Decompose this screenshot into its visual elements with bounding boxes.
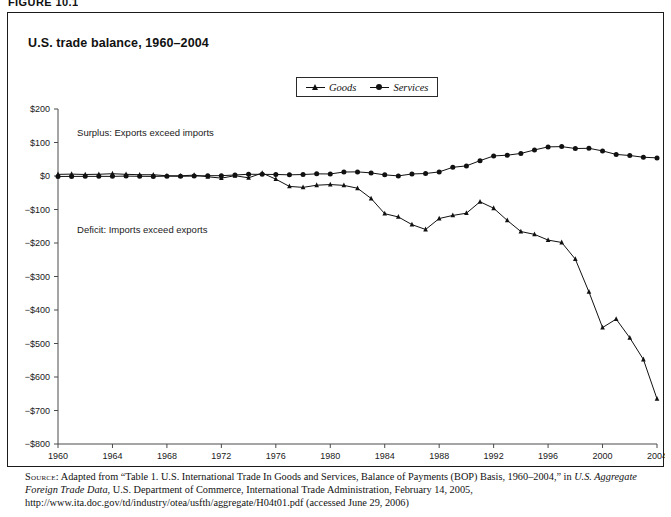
- trade-balance-line-chart: $200$100$0−$100−$200−$300−$400−$500−$600…: [8, 13, 665, 468]
- data-point: [151, 174, 156, 179]
- x-axis-tick-label: 1984: [375, 451, 395, 461]
- x-axis-tick-label: 1976: [266, 451, 286, 461]
- data-point: [124, 174, 129, 179]
- x-axis-tick-label: 2000: [593, 451, 613, 461]
- x-axis-tick-label: 2004: [647, 451, 665, 461]
- data-point: [478, 199, 483, 204]
- y-axis-tick-label: −$400: [25, 305, 50, 315]
- data-point: [273, 172, 278, 177]
- y-axis-tick-label: −$800: [25, 439, 50, 449]
- series-goods: [56, 170, 660, 401]
- data-point: [56, 174, 61, 179]
- data-point: [546, 144, 551, 149]
- figure-label: FIGURE 10.1: [8, 0, 78, 6]
- data-point: [614, 152, 619, 157]
- data-point: [137, 174, 142, 179]
- y-axis-tick-label: −$500: [25, 339, 50, 349]
- data-point: [587, 289, 592, 294]
- data-point: [559, 144, 564, 149]
- data-point: [178, 174, 183, 179]
- data-point: [287, 172, 292, 177]
- data-point: [519, 229, 524, 234]
- data-point: [641, 155, 646, 160]
- chart-frame: U.S. trade balance, 1960–2004 Goods Serv…: [7, 12, 664, 467]
- data-point: [409, 171, 414, 176]
- source-note: Source: Adapted from “Table 1. U.S. Inte…: [25, 470, 667, 510]
- data-point: [164, 174, 169, 179]
- data-point: [219, 173, 224, 178]
- data-point: [341, 170, 346, 175]
- series-services: [56, 144, 660, 179]
- data-point: [614, 316, 619, 321]
- x-axis-tick-label: 1964: [102, 451, 122, 461]
- y-axis-tick-label: −$300: [25, 272, 50, 282]
- data-point: [232, 173, 237, 178]
- data-point: [491, 153, 496, 158]
- plot-area: $200$100$0−$100−$200−$300−$400−$500−$600…: [8, 13, 665, 468]
- data-point: [328, 171, 333, 176]
- data-point: [627, 153, 632, 158]
- data-point: [437, 169, 442, 174]
- annotation-surplus: Surplus: Exports exceed imports: [77, 127, 214, 138]
- source-text-part1: Adapted from “Table 1. U.S. Internationa…: [59, 471, 574, 482]
- data-point: [369, 170, 374, 175]
- x-axis-tick-label: 1980: [320, 451, 340, 461]
- x-axis-tick-label: 1996: [538, 451, 558, 461]
- x-axis-tick-label: 1960: [48, 451, 68, 461]
- data-point: [573, 146, 578, 151]
- data-point: [382, 172, 387, 177]
- data-point: [586, 146, 591, 151]
- data-point: [246, 172, 251, 177]
- x-axis-tick-label: 1972: [211, 451, 231, 461]
- data-point: [328, 182, 333, 187]
- data-point: [110, 174, 115, 179]
- y-axis-tick-label: −$600: [25, 372, 50, 382]
- data-point: [96, 174, 101, 179]
- data-point: [505, 153, 510, 158]
- data-point: [369, 196, 374, 201]
- y-axis-tick-label: −$200: [25, 238, 50, 248]
- data-point: [464, 210, 469, 215]
- data-point: [69, 174, 74, 179]
- data-point: [600, 148, 605, 153]
- data-point: [355, 169, 360, 174]
- source-keyword: Source:: [25, 471, 59, 482]
- data-point: [205, 173, 210, 178]
- figure-root: FIGURE 10.1 U.S. trade balance, 1960–200…: [0, 0, 671, 517]
- x-axis-tick-label: 1968: [157, 451, 177, 461]
- data-point: [260, 172, 265, 177]
- x-axis-tick-label: 1992: [484, 451, 504, 461]
- annotation-deficit: Deficit: Imports exceed exports: [77, 224, 208, 235]
- data-point: [423, 171, 428, 176]
- y-axis-tick-label: −$100: [25, 205, 50, 215]
- data-point: [396, 173, 401, 178]
- data-point: [505, 218, 510, 223]
- y-axis-tick-label: $200: [30, 104, 50, 114]
- data-point: [450, 165, 455, 170]
- data-point: [532, 147, 537, 152]
- data-point: [464, 163, 469, 168]
- series-line: [58, 173, 657, 399]
- data-point: [518, 151, 523, 156]
- data-point: [314, 171, 319, 176]
- data-point: [83, 174, 88, 179]
- data-point: [655, 396, 660, 401]
- y-axis-tick-label: −$700: [25, 406, 50, 416]
- data-point: [478, 158, 483, 163]
- x-axis-tick-label: 1988: [429, 451, 449, 461]
- data-point: [301, 172, 306, 177]
- data-point: [655, 155, 660, 160]
- y-axis-tick-label: $0: [40, 171, 50, 181]
- data-point: [192, 174, 197, 179]
- y-axis-tick-label: $100: [30, 138, 50, 148]
